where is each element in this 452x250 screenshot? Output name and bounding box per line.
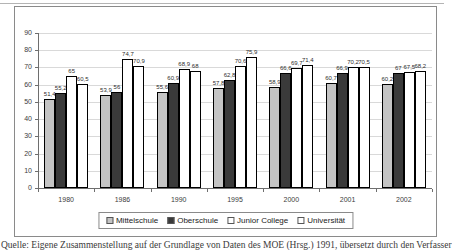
bar bbox=[302, 65, 313, 188]
bar bbox=[337, 73, 348, 188]
y-tick-label: 70 bbox=[18, 63, 32, 71]
x-tick-label: 1990 bbox=[159, 196, 199, 204]
y-tick-label: 0 bbox=[18, 184, 32, 192]
x-axis-tick bbox=[151, 189, 152, 192]
legend-swatch bbox=[227, 217, 234, 224]
source-caption: Quelle: Eigene Zusammenstellung auf der … bbox=[1, 240, 444, 250]
chart-frame: MittelschuleOberschuleJunior CollegeUniv… bbox=[14, 6, 437, 237]
bar bbox=[77, 84, 88, 188]
legend-swatch bbox=[106, 217, 113, 224]
bar-value-label: 68,2 bbox=[407, 63, 433, 70]
x-tick-label: 2002 bbox=[384, 196, 424, 204]
x-axis-tick bbox=[319, 189, 320, 192]
legend-label: Mittelschule bbox=[116, 216, 158, 225]
bar bbox=[326, 83, 337, 188]
bar bbox=[404, 72, 415, 188]
bar bbox=[269, 87, 280, 188]
x-tick-label: 1986 bbox=[102, 196, 142, 204]
legend-item-oberschule: Oberschule bbox=[167, 216, 218, 225]
bar-value-label: 60,5 bbox=[70, 76, 96, 83]
bar bbox=[168, 83, 179, 188]
x-axis-line bbox=[38, 188, 432, 189]
y-tick-label: 40 bbox=[18, 115, 32, 123]
bar-value-label: 71,4 bbox=[295, 57, 321, 64]
bar-value-label: 70,9 bbox=[126, 58, 152, 65]
x-tick-label: 2000 bbox=[271, 196, 311, 204]
legend-label: Oberschule bbox=[177, 216, 218, 225]
bar-value-label: 70,5 bbox=[351, 59, 377, 66]
y-tick-label: 10 bbox=[18, 167, 32, 175]
bar-value-label: 75,9 bbox=[239, 49, 265, 56]
x-tick-label: 1995 bbox=[215, 196, 255, 204]
bar bbox=[246, 57, 257, 188]
chart-legend: MittelschuleOberschuleJunior CollegeUniv… bbox=[98, 212, 353, 229]
bar bbox=[382, 84, 393, 188]
bar-value-label: 65 bbox=[59, 68, 85, 75]
bar bbox=[66, 76, 77, 188]
x-axis-tick bbox=[376, 189, 377, 192]
y-tick-label: 90 bbox=[18, 29, 32, 37]
bar bbox=[44, 99, 55, 188]
legend-item-mittelschule: Mittelschule bbox=[106, 216, 158, 225]
legend-swatch bbox=[167, 217, 174, 224]
y-tick-label: 30 bbox=[18, 132, 32, 140]
bar-value-label: 68 bbox=[182, 63, 208, 70]
bar bbox=[348, 67, 359, 188]
legend-label: Universität bbox=[307, 216, 345, 225]
y-tick-label: 50 bbox=[18, 98, 32, 106]
bar bbox=[291, 68, 302, 188]
legend-item-universit-t: Universität bbox=[297, 216, 345, 225]
bar bbox=[122, 59, 133, 188]
bar bbox=[359, 67, 370, 188]
y-tick-label: 20 bbox=[18, 150, 32, 158]
y-tick-label: 60 bbox=[18, 81, 32, 89]
y-gridline bbox=[38, 33, 432, 34]
x-tick-label: 2001 bbox=[328, 196, 368, 204]
bar bbox=[280, 73, 291, 188]
x-tick-label: 1980 bbox=[46, 196, 86, 204]
legend-item-junior-college: Junior College bbox=[227, 216, 288, 225]
x-axis-tick bbox=[432, 189, 433, 192]
y-gridline bbox=[38, 50, 432, 51]
bar bbox=[157, 92, 168, 188]
y-axis-line bbox=[38, 33, 39, 188]
bar bbox=[415, 71, 426, 188]
bar bbox=[55, 93, 66, 188]
x-axis-tick bbox=[38, 189, 39, 192]
x-axis-tick bbox=[94, 189, 95, 192]
bar bbox=[213, 88, 224, 188]
bar bbox=[393, 73, 404, 188]
x-axis-tick bbox=[263, 189, 264, 192]
bar bbox=[100, 95, 111, 188]
legend-swatch bbox=[297, 217, 304, 224]
bar bbox=[224, 80, 235, 188]
x-axis-tick bbox=[207, 189, 208, 192]
bar bbox=[235, 66, 246, 188]
bar bbox=[111, 92, 122, 188]
bar bbox=[190, 71, 201, 188]
top-divider-rule bbox=[0, 3, 444, 4]
bar bbox=[179, 69, 190, 188]
legend-label: Junior College bbox=[237, 216, 288, 225]
bar bbox=[133, 66, 144, 188]
y-tick-label: 80 bbox=[18, 46, 32, 54]
